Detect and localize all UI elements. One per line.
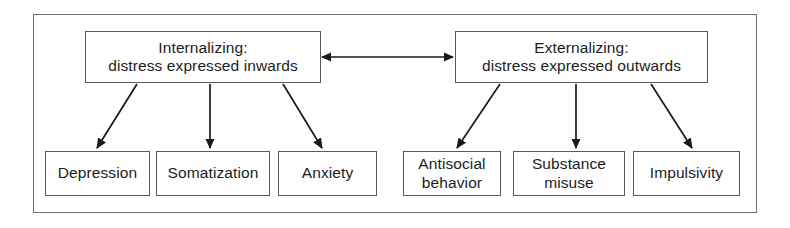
diagram-canvas: Internalizing: distress expressed inward… [0,0,790,228]
node-antisocial-behavior: Antisocial behavior [403,151,501,196]
node-label: Antisocial behavior [414,155,489,192]
node-label: Internalizing: distress expressed inward… [104,39,302,76]
node-label: Substance misuse [528,155,610,192]
node-anxiety: Anxiety [278,151,377,196]
node-label: Externalizing: distress expressed outwar… [478,39,685,76]
node-label: Impulsivity [646,164,727,182]
node-somatization: Somatization [156,151,270,196]
node-label: Depression [54,164,141,182]
node-externalizing: Externalizing: distress expressed outwar… [455,31,708,83]
node-label: Anxiety [298,164,358,182]
node-depression: Depression [45,151,150,196]
node-label: Somatization [164,164,263,182]
node-substance-misuse: Substance misuse [513,151,625,196]
node-internalizing: Internalizing: distress expressed inward… [85,31,321,83]
node-impulsivity: Impulsivity [633,151,740,196]
